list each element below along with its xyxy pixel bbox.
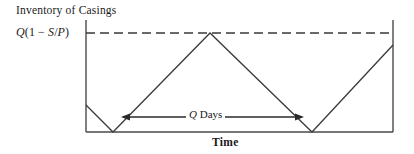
q-days-annotation-label: Q Days bbox=[186, 108, 225, 120]
y-label-q-symbol: Q bbox=[16, 25, 25, 39]
inventory-chart-figure: Inventory of Casings Q(1 − S/P) Q Days T… bbox=[0, 0, 414, 154]
y-label-open: (1 − bbox=[25, 25, 48, 39]
y-label-close: ) bbox=[65, 25, 69, 39]
chart-title: Inventory of Casings bbox=[16, 4, 116, 16]
chart-plot-area bbox=[0, 0, 414, 154]
x-axis-label: Time bbox=[212, 136, 239, 148]
q-days-days-text: Days bbox=[197, 108, 222, 120]
q-days-q-symbol: Q bbox=[189, 108, 197, 120]
y-axis-tick-label: Q(1 − S/P) bbox=[16, 25, 69, 40]
y-label-p-symbol: P bbox=[58, 25, 65, 39]
